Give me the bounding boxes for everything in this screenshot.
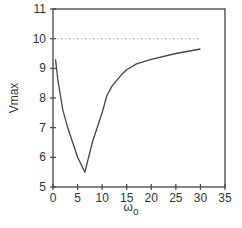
y-tick-label: 10 <box>33 32 47 46</box>
y-tick-label: 6 <box>39 150 46 164</box>
vmax-chart: 05101520253035567891011 Vmax ωo <box>0 0 242 228</box>
x-tick-label: 10 <box>95 191 109 205</box>
y-tick-label: 7 <box>39 121 46 135</box>
x-axis-label-main: ω <box>124 200 133 214</box>
x-axis-label-subscript: o <box>133 206 139 217</box>
x-axis-label: ωo <box>124 200 139 217</box>
x-tick-label: 5 <box>74 191 81 205</box>
y-axis-label: Vmax <box>7 83 21 114</box>
x-tick-label: 35 <box>218 191 232 205</box>
y-tick-label: 5 <box>39 180 46 194</box>
x-tick-label: 0 <box>50 191 57 205</box>
vmax-curve <box>56 49 201 172</box>
y-tick-label: 8 <box>39 91 46 105</box>
y-tick-label: 9 <box>39 61 46 75</box>
x-tick-label: 30 <box>194 191 208 205</box>
axis-ticks: 05101520253035567891011 <box>33 2 232 205</box>
data-series <box>53 39 200 173</box>
x-tick-label: 25 <box>169 191 183 205</box>
x-tick-label: 20 <box>145 191 159 205</box>
y-tick-label: 11 <box>34 2 47 16</box>
